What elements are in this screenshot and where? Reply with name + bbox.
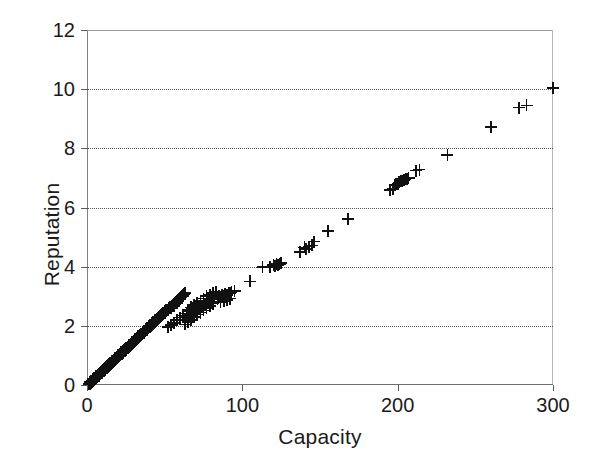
x-tick-label-100: 100 bbox=[226, 394, 259, 417]
y-axis-title-label: Reputation bbox=[40, 183, 64, 287]
x-tick-mark-200 bbox=[398, 385, 399, 391]
markers-group bbox=[83, 82, 559, 391]
y-tick-label-12: 12 bbox=[53, 19, 75, 42]
scatter-chart-figure: Reputation 024681012 0100200300 Capacity bbox=[0, 0, 594, 469]
y-tick-label-0: 0 bbox=[64, 374, 75, 397]
plot-area: 024681012 0100200300 bbox=[87, 30, 553, 385]
x-tick-label-300: 300 bbox=[536, 394, 569, 417]
x-tick-mark-300 bbox=[553, 385, 554, 391]
x-tick-label-0: 0 bbox=[81, 394, 92, 417]
scatter-points-layer bbox=[87, 30, 553, 385]
x-tick-mark-100 bbox=[242, 385, 243, 391]
y-tick-label-10: 10 bbox=[53, 78, 75, 101]
x-axis-title-label: Capacity bbox=[278, 425, 361, 448]
y-tick-label-8: 8 bbox=[64, 137, 75, 160]
y-tick-label-6: 6 bbox=[64, 196, 75, 219]
x-axis-title: Capacity bbox=[87, 425, 553, 449]
x-tick-label-200: 200 bbox=[381, 394, 414, 417]
y-tick-label-2: 2 bbox=[64, 314, 75, 337]
y-tick-label-4: 4 bbox=[64, 255, 75, 278]
